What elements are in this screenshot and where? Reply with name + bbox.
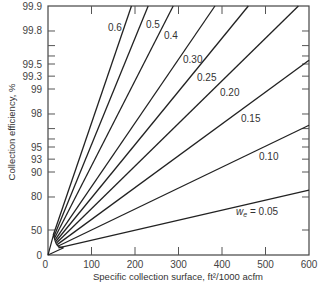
- x-tick-label: 300: [170, 259, 187, 270]
- plot-frame: [48, 6, 309, 255]
- series-line-0.5: [54, 6, 148, 237]
- series-lines: [48, 6, 309, 255]
- y-tick-label: 95: [31, 142, 43, 153]
- y-tick-label: 50: [31, 225, 43, 236]
- series-label: 0.25: [197, 72, 217, 83]
- x-tick-label: 400: [214, 259, 231, 270]
- x-tick-label: 200: [127, 259, 144, 270]
- series-label: 0.5: [146, 19, 160, 30]
- y-tick-label: 98: [31, 108, 43, 119]
- y-tick-label: 80: [31, 191, 43, 202]
- y-axis-title: Collection efficiency, %: [6, 83, 17, 180]
- plot-border: [48, 6, 309, 255]
- series-label: 0.15: [241, 113, 261, 124]
- x-tick-label: 500: [257, 259, 274, 270]
- series-label-we: we: [236, 206, 247, 218]
- y-tick-label: 99.8: [23, 25, 43, 36]
- series-label: = 0.05: [250, 206, 279, 217]
- series-line-0.30: [55, 6, 215, 240]
- series-line-0.10: [58, 125, 309, 246]
- series-label: 0.4: [164, 30, 178, 41]
- series-label: 0.10: [259, 151, 279, 162]
- y-tick-label: 99.3: [23, 71, 43, 82]
- x-tick-label: 600: [301, 259, 318, 270]
- series-label: 0.6: [108, 22, 122, 33]
- x-axis-title: Specific collection surface, ft²/1000 ac…: [93, 271, 263, 282]
- series-label: 0.30: [183, 54, 203, 65]
- y-tick-label: 99.9: [23, 1, 43, 12]
- y-tick-label: 93: [31, 154, 43, 165]
- series-label: 0.20: [220, 87, 240, 98]
- y-tick-label: 99.5: [23, 59, 43, 70]
- y-tick-label: 90: [31, 167, 43, 178]
- y-tick-label: 99: [31, 84, 43, 95]
- series-line-0.6: [53, 6, 131, 235]
- x-axis: 0100200300400500600: [42, 6, 317, 270]
- x-tick-label: 100: [83, 259, 100, 270]
- x-tick-label: 0: [42, 259, 48, 270]
- collection-efficiency-chart: 05080909395989999.399.599.899.9 01002003…: [0, 0, 325, 286]
- series-line-0.25: [56, 6, 248, 241]
- series-line-0.05: [58, 190, 309, 248]
